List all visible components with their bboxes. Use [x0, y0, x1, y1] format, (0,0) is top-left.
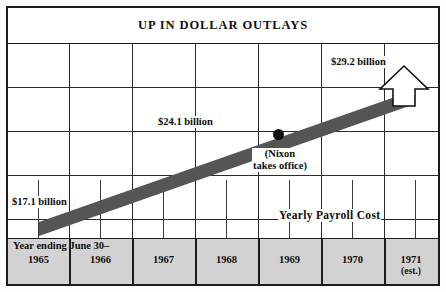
chart-figure: UP IN DOLLAR OUTLAYS	[0, 0, 446, 292]
x-axis-band: Year ending June 30– 1965 1966 1967 1968	[8, 238, 438, 284]
x-axis-tick-1965: 1965	[8, 254, 69, 284]
page-title: UP IN DOLLAR OUTLAYS	[138, 18, 308, 33]
annotation-nixon-line-1: (Nixon	[253, 148, 307, 160]
annotation-mid-value: $24.1 billion	[157, 116, 214, 128]
x-axis-tick-label: 1968	[216, 254, 237, 265]
chart-frame: UP IN DOLLAR OUTLAYS	[6, 6, 440, 286]
x-axis-tick-label: 1969	[279, 254, 300, 265]
annotation-nixon-takes-office: (Nixon takes office)	[252, 148, 308, 172]
x-axis-tick-label: 1967	[153, 254, 174, 265]
annotation-nixon-line-2: takes office)	[253, 160, 307, 172]
x-axis-tick-label: 1971	[401, 254, 422, 265]
data-point-marker-nixon	[273, 129, 284, 140]
x-axis-tick-1967: 1967	[132, 254, 195, 284]
x-axis-tick-1966: 1966	[69, 254, 132, 284]
series-label: Yearly Payroll Cost	[278, 209, 381, 222]
chart-title-band: UP IN DOLLAR OUTLAYS	[8, 8, 438, 44]
x-axis-tick-1971: 1971 (est.)	[384, 254, 438, 284]
x-axis-tick-label: 1970	[342, 254, 363, 265]
x-axis-tick-label: 1965	[28, 254, 49, 265]
x-axis-tick-sublabel: (est.)	[401, 266, 421, 276]
x-axis-tick-1970: 1970	[321, 254, 384, 284]
x-axis-header: Year ending June 30–	[13, 240, 109, 251]
x-axis-tick-1968: 1968	[195, 254, 258, 284]
x-axis-tick-label: 1966	[90, 254, 111, 265]
annotation-start-value: $17.1 billion	[11, 196, 68, 208]
annotation-end-value: $29.2 billion	[330, 56, 387, 68]
plot-area: $17.1 billion $24.1 billion (Nixon takes…	[8, 44, 438, 238]
x-axis-tick-1969: 1969	[258, 254, 321, 284]
